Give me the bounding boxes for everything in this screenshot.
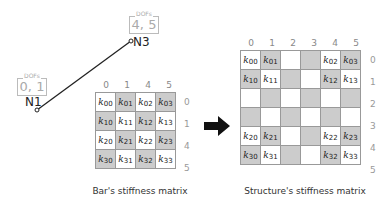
row-header: 1 — [184, 119, 194, 129]
n1-dofs-box: DOFs0, 1 — [17, 78, 47, 96]
matrix-cell — [241, 89, 261, 108]
matrix-cell: k03 — [156, 93, 176, 112]
row-header: 4 — [370, 143, 380, 153]
matrix-cell: k20 — [96, 131, 116, 150]
matrix-cell: k02 — [136, 93, 156, 112]
matrix-cell — [261, 89, 281, 108]
row-header: 5 — [370, 165, 380, 175]
matrix-cell — [301, 108, 321, 127]
matrix-cell: k11 — [116, 112, 136, 131]
matrix-cell: k10 — [241, 70, 261, 89]
row-header: 4 — [184, 141, 194, 151]
right-arrow-icon — [204, 116, 230, 136]
matrix-cell: k31 — [261, 146, 281, 165]
n3-dofs-box: DOFs4, 5 — [129, 16, 159, 34]
col-header: 2 — [283, 38, 303, 48]
matrix-cell: k00 — [241, 51, 261, 70]
matrix-cell: k20 — [241, 127, 261, 146]
matrix-cell: k32 — [136, 150, 156, 169]
row-header: 0 — [370, 55, 380, 65]
matrix-cell: k13 — [341, 70, 361, 89]
bar-stiffness-matrix: k00k01k02k03k10k11k12k13k20k21k22k23k30k… — [95, 92, 176, 169]
col-header: 1 — [262, 38, 282, 48]
col-header: 4 — [138, 80, 158, 90]
row-header: 1 — [370, 77, 380, 87]
matrix-cell: k32 — [321, 146, 341, 165]
matrix-cell: k12 — [136, 112, 156, 131]
matrix-cell — [301, 146, 321, 165]
matrix-cell: k11 — [261, 70, 281, 89]
matrix-cell: k23 — [156, 131, 176, 150]
matrix-cell: k01 — [261, 51, 281, 70]
matrix-cell: k21 — [261, 127, 281, 146]
matrix-cell — [261, 108, 281, 127]
row-header: 0 — [184, 97, 194, 107]
col-header: 0 — [241, 38, 261, 48]
matrix-cell — [241, 108, 261, 127]
matrix-cell — [321, 89, 341, 108]
matrix-cell — [281, 51, 301, 70]
col-header: 4 — [325, 38, 345, 48]
matrix-cell: k13 — [156, 112, 176, 131]
matrix-cell — [301, 89, 321, 108]
matrix-cell: k01 — [116, 93, 136, 112]
bar-matrix-caption: Bar's stiffness matrix — [85, 186, 195, 196]
matrix-cell — [281, 146, 301, 165]
structure-stiffness-matrix: k00k01k02k03k10k11k12k13k20k21k22k23k30k… — [240, 50, 361, 165]
matrix-cell: k03 — [341, 51, 361, 70]
matrix-cell: k02 — [321, 51, 341, 70]
col-header: 5 — [159, 80, 179, 90]
matrix-cell: k30 — [241, 146, 261, 165]
row-header: 5 — [184, 163, 194, 173]
matrix-cell: k22 — [321, 127, 341, 146]
matrix-cell: k23 — [341, 127, 361, 146]
matrix-cell — [301, 51, 321, 70]
matrix-cell: k21 — [116, 131, 136, 150]
matrix-cell: k30 — [96, 150, 116, 169]
matrix-cell — [301, 127, 321, 146]
matrix-cell — [341, 89, 361, 108]
matrix-cell — [281, 108, 301, 127]
matrix-cell: k10 — [96, 112, 116, 131]
matrix-cell: k31 — [116, 150, 136, 169]
n1-label: N1 — [25, 95, 42, 109]
matrix-cell — [341, 108, 361, 127]
matrix-cell: k00 — [96, 93, 116, 112]
row-header: 2 — [370, 99, 380, 109]
row-header: 3 — [370, 121, 380, 131]
matrix-cell — [281, 70, 301, 89]
n3-label: N3 — [133, 35, 150, 49]
col-header: 1 — [117, 80, 137, 90]
matrix-cell: k33 — [156, 150, 176, 169]
matrix-cell: k33 — [341, 146, 361, 165]
col-header: 0 — [96, 80, 116, 90]
matrix-cell — [301, 70, 321, 89]
col-header: 5 — [346, 38, 366, 48]
matrix-cell — [321, 108, 341, 127]
structure-matrix-caption: Structure's stiffness matrix — [240, 186, 370, 196]
col-header: 3 — [304, 38, 324, 48]
matrix-cell — [281, 127, 301, 146]
matrix-cell: k12 — [321, 70, 341, 89]
matrix-cell — [281, 89, 301, 108]
matrix-cell: k22 — [136, 131, 156, 150]
